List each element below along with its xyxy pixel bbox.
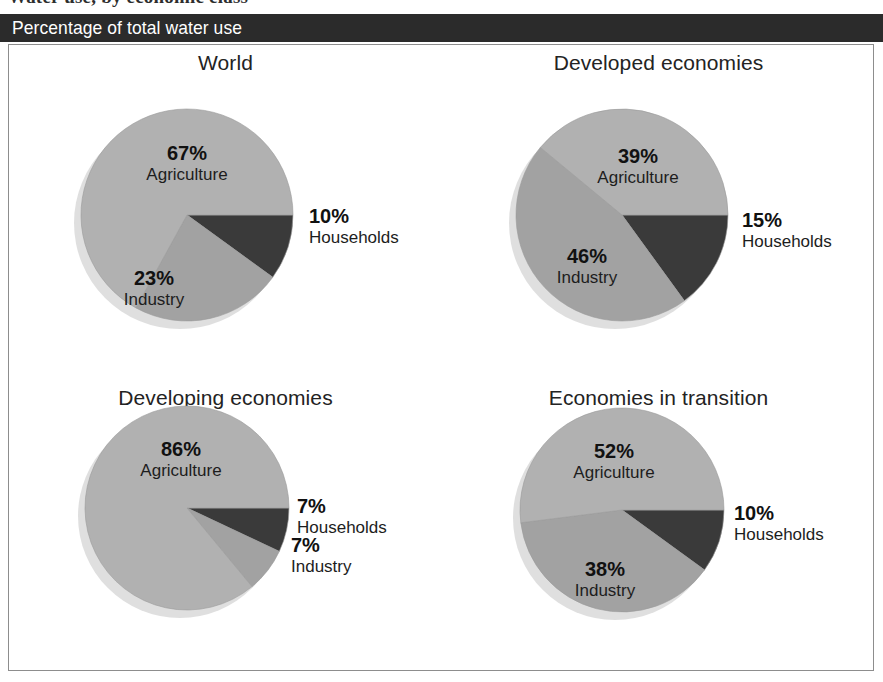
charts-panel: World 10%Households23%Industry67%Agricul… <box>8 44 874 671</box>
pie-grid: World 10%Households23%Industry67%Agricul… <box>9 45 875 672</box>
figure-supertitle: Water use, by economic class <box>8 0 248 8</box>
slice-percent-text: 39% <box>618 145 658 167</box>
slice-percent-text: 86% <box>161 438 201 460</box>
slice-percent-text: 15% <box>742 209 782 231</box>
slice-percent-text: 38% <box>585 558 625 580</box>
pie-chart-developing-economies: 7%Households7%Industry86%Agriculture <box>9 358 442 671</box>
pie-block-world: World 10%Households23%Industry67%Agricul… <box>9 45 442 358</box>
slice-label-text: Industry <box>575 581 636 600</box>
pie-chart-world: 10%Households23%Industry67%Agriculture <box>9 45 442 358</box>
slice-percent-text: 67% <box>167 142 207 164</box>
slice-label-text: Households <box>309 228 399 247</box>
pie-chart-developed-economies: 15%Households46%Industry39%Agriculture <box>442 45 875 358</box>
slice-label-text: Households <box>734 525 824 544</box>
slice-label-text: Industry <box>557 268 618 287</box>
slice-label-text: Agriculture <box>140 461 221 480</box>
slice-percent-text: 10% <box>309 205 349 227</box>
slice-percent-text: 10% <box>734 502 774 524</box>
pie-block-economies-in-transition: Economies in transition 10%Households38%… <box>442 358 875 671</box>
pie-chart-economies-in-transition: 10%Households38%Industry52%Agriculture <box>442 358 875 671</box>
chart-header-title: Percentage of total water use <box>12 17 242 39</box>
pie-label-industry: 7%Industry <box>291 534 352 576</box>
slice-label-text: Industry <box>291 557 352 576</box>
slice-label-text: Agriculture <box>597 168 678 187</box>
slice-percent-text: 52% <box>594 440 634 462</box>
slice-label-text: Agriculture <box>146 165 227 184</box>
slice-percent-text: 23% <box>134 267 174 289</box>
slice-label-text: Industry <box>124 290 185 309</box>
pie-block-developed-economies: Developed economies 15%Households46%Indu… <box>442 45 875 358</box>
slice-label-text: Households <box>742 232 832 251</box>
pie-label-households: 15%Households <box>742 209 832 251</box>
slice-percent-text: 7% <box>297 495 326 517</box>
chart-header-band: Percentage of total water use <box>0 14 883 42</box>
pie-label-households: 7%Households <box>297 495 387 537</box>
pie-label-households: 10%Households <box>309 205 399 247</box>
water-use-figure: Water use, by economic class Percentage … <box>0 0 883 682</box>
slice-label-text: Agriculture <box>573 463 654 482</box>
pie-block-developing-economies: Developing economies 7%Households7%Indus… <box>9 358 442 671</box>
pie-label-households: 10%Households <box>734 502 824 544</box>
slice-percent-text: 7% <box>291 534 320 556</box>
slice-percent-text: 46% <box>567 245 607 267</box>
figure-supertitle-strip: Water use, by economic class <box>0 0 883 14</box>
